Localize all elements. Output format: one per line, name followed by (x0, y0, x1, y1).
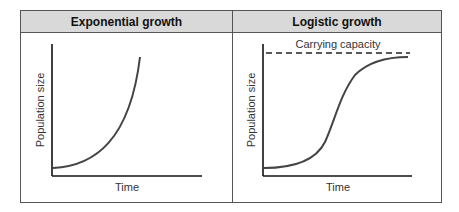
x-axis-label: Time (326, 181, 350, 193)
y-axis-label: Population size (245, 73, 257, 148)
x-axis-label: Time (115, 181, 139, 193)
logistic-chart: Carrying capacity Time Population size (245, 38, 412, 193)
exponential-curve (53, 57, 140, 168)
growth-diagrams: Time Population size Carrying capacity T… (0, 0, 459, 212)
y-axis-label: Population size (34, 73, 46, 148)
carrying-capacity-label: Carrying capacity (296, 38, 381, 50)
exponential-chart: Time Population size (34, 44, 202, 193)
logistic-curve (264, 57, 408, 168)
